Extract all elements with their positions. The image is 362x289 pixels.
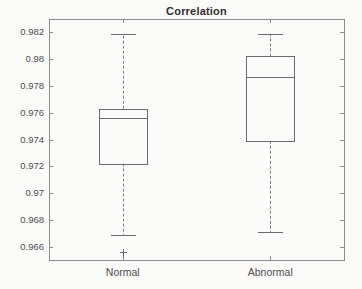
y-tick-label: 0.972 — [2, 160, 44, 172]
x-category-label-normal: Normal — [106, 266, 140, 278]
y-tick-label: 0.978 — [2, 80, 44, 92]
boxplot-canvas — [0, 0, 362, 289]
iqr-box — [247, 57, 295, 142]
y-tick-label: 0.968 — [2, 214, 44, 226]
iqr-box — [100, 110, 148, 165]
y-tick-label: 0.966 — [2, 241, 44, 253]
y-tick-label: 0.97 — [2, 187, 44, 199]
y-tick-label: 0.98 — [2, 53, 44, 65]
boxplot-figure: Correlation 0.9660.9680.970.9720.9740.97… — [0, 0, 362, 289]
x-category-label-abnormal: Abnormal — [248, 266, 293, 278]
y-tick-label: 0.976 — [2, 107, 44, 119]
plot-frame — [49, 19, 344, 260]
y-tick-label: 0.974 — [2, 134, 44, 146]
y-tick-label: 0.982 — [2, 26, 44, 38]
